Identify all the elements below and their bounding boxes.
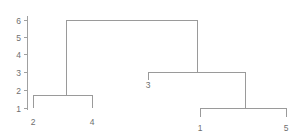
dendrogram-chart: 6 5 4 3 2 1 2 4 3 1 5 [0, 0, 297, 135]
link-merge-3-cluster15 [149, 73, 246, 109]
y-tick-label-6: 6 [16, 16, 21, 26]
dendrogram-links [34, 21, 287, 118]
dendrogram-plot-area: 6 5 4 3 2 1 2 4 3 1 5 [0, 0, 297, 135]
y-axis-ticks [24, 21, 28, 109]
y-axis-tick-labels: 6 5 4 3 2 1 [16, 16, 21, 114]
leaf-label-5: 5 [284, 123, 289, 133]
link-merge-1-5 [201, 109, 287, 118]
link-merge-root [67, 21, 198, 96]
leaf-labels: 2 4 3 1 5 [31, 80, 289, 133]
leaf-label-4: 4 [90, 117, 95, 127]
y-tick-label-5: 5 [16, 33, 21, 43]
leaf-label-1: 1 [198, 123, 203, 133]
y-tick-label-3: 3 [16, 68, 21, 78]
link-merge-2-4 [34, 96, 93, 109]
y-tick-label-4: 4 [16, 50, 21, 60]
leaf-label-2: 2 [31, 117, 36, 127]
y-tick-label-2: 2 [16, 86, 21, 96]
y-tick-label-1: 1 [16, 104, 21, 114]
leaf-label-3: 3 [146, 80, 151, 90]
